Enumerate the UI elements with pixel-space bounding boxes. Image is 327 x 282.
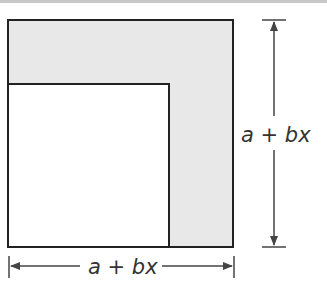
square-diagram: a + bx a + bx (0, 0, 327, 282)
horizontal-dimension-label: a + bx (88, 255, 158, 279)
inner-square (8, 84, 169, 247)
vertical-dimension-label: a + bx (241, 123, 311, 147)
